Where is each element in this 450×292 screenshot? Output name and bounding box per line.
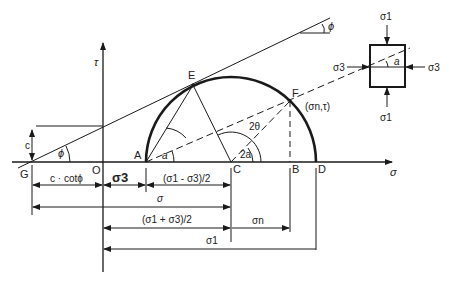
point-E-dot: [191, 83, 194, 86]
tau-axis-label: τ: [94, 56, 99, 68]
failure-envelope: [18, 18, 330, 168]
label-element-right-sigma3: σ3: [428, 62, 440, 73]
label-sigma1-dim: σ1: [206, 235, 218, 246]
label-A: A: [134, 149, 142, 161]
label-sigma3-dim: σ3: [112, 170, 128, 185]
label-F: F: [292, 87, 299, 99]
diagram-canvas: τ σ E F (σn,τ) A C B D G O c ϕ ϕ a 2a 2θ…: [0, 0, 450, 292]
label-half-sum: (σ1 + σ3)/2: [142, 214, 192, 225]
radius-CE: [193, 85, 231, 162]
sigma-axis-label: σ: [390, 166, 397, 178]
chord-AE: [146, 85, 193, 162]
label-O: O: [92, 164, 101, 176]
label-two-alpha: 2a: [240, 149, 252, 160]
label-alpha-A: a: [162, 150, 168, 161]
phi-arc-top: [322, 24, 324, 33]
label-alpha-element: a: [394, 56, 400, 67]
label-c: c: [25, 140, 30, 151]
label-D: D: [318, 163, 326, 175]
label-B: B: [292, 163, 299, 175]
label-two-theta: 2θ: [249, 121, 261, 132]
label-element-bottom-sigma1: σ1: [380, 112, 392, 123]
point-F-dot: [288, 99, 291, 102]
element-alpha-arc: [386, 61, 388, 67]
angle-arc-at-E: [166, 128, 186, 138]
label-phi-G: ϕ: [58, 147, 64, 159]
label-C: C: [233, 163, 241, 175]
phi-arc-G: [66, 146, 70, 162]
label-c-cotphi: c · cotϕ: [50, 173, 83, 184]
label-element-left-sigma3: σ3: [333, 62, 345, 73]
alpha-arc-A: [172, 151, 174, 162]
label-G: G: [20, 168, 29, 180]
label-element-top-sigma1: σ1: [380, 11, 392, 22]
label-phi-top: ϕ: [328, 20, 334, 32]
label-sigma-n: σn: [252, 215, 264, 226]
label-F-coords: (σn,τ): [305, 101, 330, 112]
label-sigma-dim: σ: [157, 193, 164, 204]
mohr-circle-diagram: τ σ E F (σn,τ) A C B D G O c ϕ ϕ a 2a 2θ…: [0, 0, 450, 292]
label-E: E: [188, 69, 195, 81]
label-half-diff: (σ1 - σ3)/2: [163, 173, 211, 184]
